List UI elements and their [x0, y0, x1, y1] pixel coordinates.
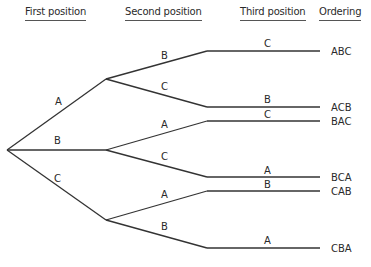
label-third-CAB: B: [264, 179, 271, 190]
edge-first-C: [7, 150, 106, 220]
edge-C-B: [106, 220, 207, 248]
label-third-CBA: A: [264, 235, 271, 246]
label-second-AB: B: [161, 50, 168, 61]
ordering-BCA: BCA: [331, 172, 352, 183]
label-second-BC: C: [161, 151, 168, 162]
label-third-ABC: C: [264, 38, 271, 49]
ordering-ABC: ABC: [331, 46, 352, 57]
label-third-ACB: B: [264, 94, 271, 105]
ordering-BAC: BAC: [331, 116, 352, 127]
label-third-BCA: A: [264, 165, 271, 176]
edge-A-C: [106, 79, 207, 107]
edge-A-B: [106, 51, 207, 79]
ordering-ACB: ACB: [331, 102, 352, 113]
label-first-C: C: [54, 173, 61, 184]
label-third-BAC: C: [264, 109, 271, 120]
tree-diagram: A B C B C A C A B C B C A B A ABC ACB BA…: [0, 0, 371, 267]
label-second-CB: B: [161, 221, 168, 232]
label-first-B: B: [54, 135, 61, 146]
label-first-A: A: [55, 96, 62, 107]
ordering-CBA: CBA: [331, 243, 352, 254]
label-second-CA: A: [161, 189, 168, 200]
label-second-AC: C: [161, 81, 168, 92]
edge-C-A: [106, 191, 207, 220]
edge-B-C: [106, 150, 207, 177]
ordering-CAB: CAB: [331, 186, 352, 197]
edge-B-A: [106, 121, 207, 150]
label-second-BA: A: [161, 119, 168, 130]
